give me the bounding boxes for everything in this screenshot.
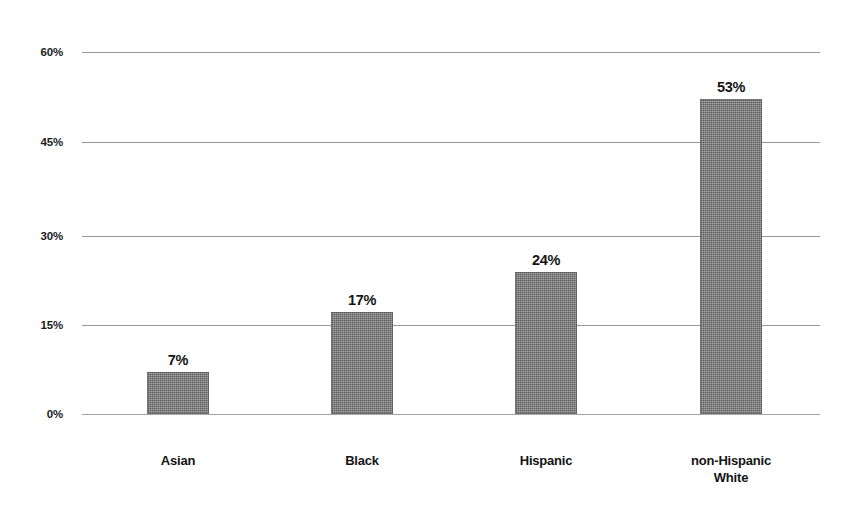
bars-layer: 7% 17% 24% 53% <box>82 52 820 414</box>
bar-value-hispanic: 24% <box>499 252 593 268</box>
y-tick-label-15: 15% <box>11 319 63 331</box>
x-label-non-hispanic-white-line1: non-Hispanic <box>691 453 771 468</box>
x-label-hispanic: Hispanic <box>471 452 621 469</box>
bar-asian[interactable] <box>147 372 209 414</box>
x-label-non-hispanic-white-line2: White <box>656 469 806 486</box>
bar-value-asian: 7% <box>131 352 225 368</box>
bar-value-non-hispanic-white: 53% <box>684 79 778 95</box>
gridline-0 <box>82 414 820 415</box>
x-label-black: Black <box>287 452 437 469</box>
plot-area: 7% 17% 24% 53% <box>82 52 820 414</box>
x-label-non-hispanic-white: non-Hispanic White <box>656 452 806 486</box>
bar-non-hispanic-white[interactable] <box>700 99 762 414</box>
x-label-asian: Asian <box>103 452 253 469</box>
bar-chart: 60% 45% 30% 15% 0% 7% 17% 24% <box>0 0 855 514</box>
bar-value-black: 17% <box>315 292 409 308</box>
bar-hispanic[interactable] <box>515 272 577 414</box>
y-tick-label-0: 0% <box>11 408 63 420</box>
y-tick-label-60: 60% <box>11 46 63 58</box>
bar-black[interactable] <box>331 312 393 414</box>
y-tick-label-30: 30% <box>11 230 63 242</box>
y-tick-label-45: 45% <box>11 136 63 148</box>
x-axis-category-labels: Asian Black Hispanic non-Hispanic White <box>82 452 820 508</box>
